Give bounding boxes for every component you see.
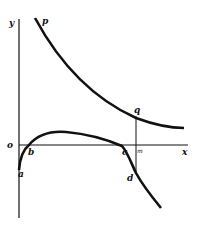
y-axis-label: y — [8, 18, 15, 28]
point-a-label: a — [18, 169, 24, 179]
point-c-label: c — [122, 147, 128, 157]
x-axis-label: x — [181, 147, 188, 157]
point-b-label: b — [28, 147, 34, 157]
point-q-label: q — [134, 105, 140, 115]
point-m-label: m — [137, 147, 143, 154]
diagram-canvas: y p q o b c m x a d — [0, 0, 199, 225]
point-d-label: d — [127, 173, 134, 183]
curve-abcd — [19, 132, 161, 208]
curve-p-label: p — [42, 16, 49, 26]
curve-p — [35, 18, 184, 128]
origin-label: o — [7, 140, 13, 150]
